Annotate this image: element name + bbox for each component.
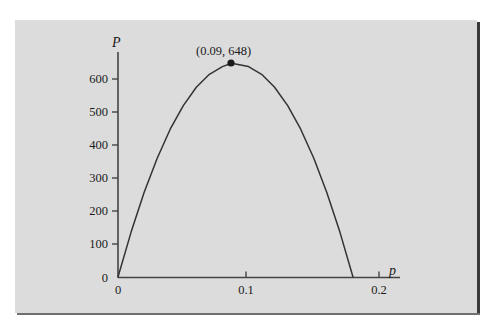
x-axis-ticks xyxy=(246,272,379,278)
y-axis-ticks xyxy=(112,79,118,244)
y-tick-label-0: 0 xyxy=(88,272,108,285)
y-tick-label-500: 500 xyxy=(80,106,108,119)
x-tick-label-0.2: 0.2 xyxy=(365,284,393,297)
y-tick-label-400: 400 xyxy=(80,139,108,152)
y-tick-label-300: 300 xyxy=(80,172,108,185)
peak-annotation-label: (0.09, 648) xyxy=(196,45,251,58)
x-tick-label-0: 0 xyxy=(108,284,128,297)
parabola-curve xyxy=(118,63,353,277)
y-tick-label-200: 200 xyxy=(80,205,108,218)
figure-page: 0 100 200 300 400 500 600 0 0.1 0.2 P p … xyxy=(0,0,497,328)
y-axis-title: P xyxy=(112,36,121,50)
peak-point-marker xyxy=(227,59,234,66)
y-tick-label-100: 100 xyxy=(80,238,108,251)
y-tick-label-600: 600 xyxy=(80,73,108,86)
x-axis-title: p xyxy=(389,264,396,278)
x-tick-label-0.1: 0.1 xyxy=(232,284,260,297)
